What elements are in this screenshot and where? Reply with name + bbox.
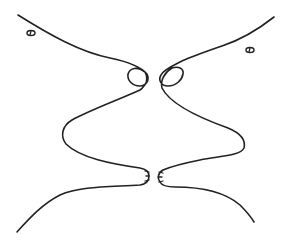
left-profile-outline [17,15,149,232]
left-face-profile [17,15,149,232]
faces-illustration [0,0,304,250]
drawing-canvas: Line drawing of two mirrored face profil… [0,0,304,250]
left-lip-marks [145,171,149,181]
right-eye-pupil-mark [249,48,250,52]
right-profile-outline [158,17,274,222]
right-face-profile [158,17,274,222]
lip-mark [145,171,149,172]
left-eye-pupil-mark [30,31,31,35]
